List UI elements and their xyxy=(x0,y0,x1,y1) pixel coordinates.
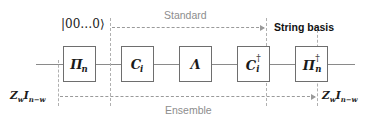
string-basis-label: String basis xyxy=(274,22,334,33)
wire-segment-4 xyxy=(270,64,295,65)
ensemble-scope-arrow xyxy=(60,96,315,97)
input-state-label: |00…0⟩ xyxy=(61,18,105,30)
dashed-divider-standard-start xyxy=(110,18,111,106)
quantum-circuit-figure: Πn Ci Λ C†i Π†n |00…0⟩ Standard String b… xyxy=(0,0,376,123)
wire-segment-3 xyxy=(212,64,237,65)
gate-c-i-dagger[interactable]: C†i xyxy=(237,46,270,82)
operator-right-i: I xyxy=(336,89,341,101)
operator-label-left: ZwIn−w xyxy=(10,90,46,101)
standard-scope-arrow xyxy=(112,27,264,28)
gate-c-i-dagger-label: C†i xyxy=(246,57,261,72)
gate-c-i[interactable]: Ci xyxy=(121,46,154,82)
operator-right-z: Z xyxy=(322,89,330,101)
gate-pi-n[interactable]: Πn xyxy=(63,46,96,82)
operator-left-z: Z xyxy=(10,89,18,101)
gate-pi-n-label: Πn xyxy=(70,58,88,71)
gate-lambda-label: Λ xyxy=(190,58,200,71)
operator-right-sub-w: w xyxy=(330,95,336,104)
wire-segment-1 xyxy=(96,64,121,65)
gate-pi-n-dagger[interactable]: Π†n xyxy=(295,46,328,82)
gate-lambda[interactable]: Λ xyxy=(179,46,212,82)
dashed-divider-input xyxy=(58,60,59,106)
operator-left-sub-nw: n−w xyxy=(29,95,46,104)
standard-label: Standard xyxy=(164,10,207,21)
operator-label-right: ZwIn−w xyxy=(322,90,358,101)
gate-c-i-label: Ci xyxy=(131,58,145,71)
operator-left-sub-w: w xyxy=(18,95,24,104)
operator-right-sub-nw: n−w xyxy=(341,95,358,104)
ensemble-label: Ensemble xyxy=(165,105,212,116)
wire-segment-out xyxy=(328,64,355,65)
operator-left-i: I xyxy=(24,89,29,101)
wire-segment-2 xyxy=(154,64,179,65)
gate-pi-n-dagger-label: Π†n xyxy=(303,57,320,72)
